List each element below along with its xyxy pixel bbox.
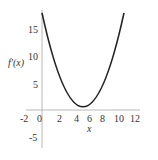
- x-axis-label: x: [86, 123, 92, 134]
- x-tick: 0: [37, 113, 42, 124]
- x-tick: 8: [100, 113, 105, 124]
- y-tick: 10: [28, 51, 38, 62]
- x-tick: 2: [57, 113, 62, 124]
- x-tick: 4: [74, 113, 79, 124]
- x-tick-labels: -2 0 2 4 6 8 10 12: [20, 113, 140, 124]
- x-tick: 10: [114, 113, 124, 124]
- y-tick: 15: [28, 24, 38, 35]
- y-tick: -5: [29, 132, 37, 143]
- x-tick: 12: [130, 113, 140, 124]
- derivative-curve: [42, 13, 124, 107]
- y-tick-labels: 15 10 5 -5: [28, 24, 38, 143]
- x-tick: -2: [20, 113, 28, 124]
- y-axis-label: f'(x): [8, 57, 25, 69]
- y-tick: 5: [33, 79, 38, 90]
- chart: -2 0 2 4 6 8 10 12 15 10 5 -5 f'(x) x: [0, 0, 158, 160]
